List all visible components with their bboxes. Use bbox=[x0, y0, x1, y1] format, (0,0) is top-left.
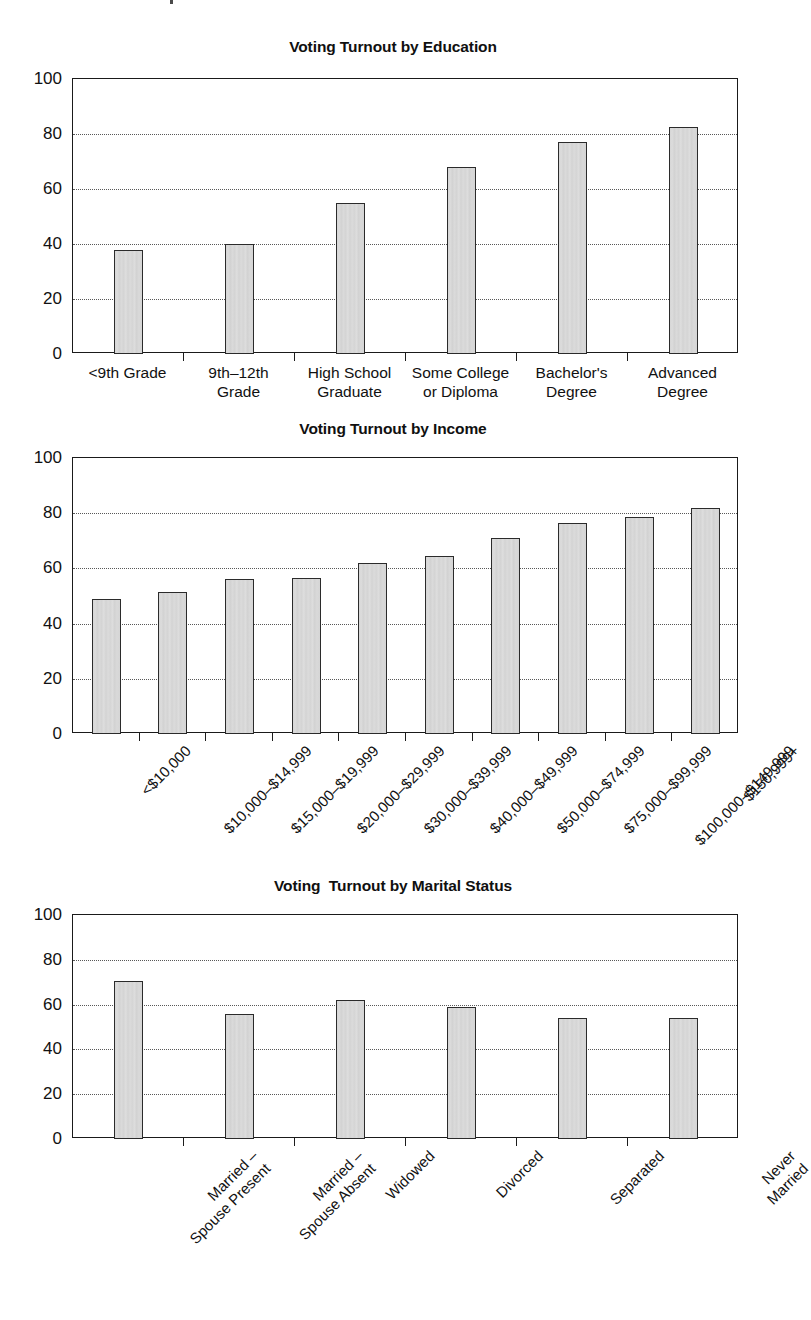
y-axis-label-100: 100 bbox=[10, 906, 62, 923]
bar bbox=[558, 1018, 587, 1139]
x-axis-tick bbox=[405, 353, 406, 361]
x-axis-tick bbox=[627, 1138, 628, 1146]
x-axis-tick bbox=[472, 733, 473, 741]
y-axis-label-40: 40 bbox=[10, 235, 62, 252]
y-axis-label-40: 40 bbox=[10, 615, 62, 632]
y-axis-label-0: 0 bbox=[10, 725, 62, 742]
chart-title-marital: Voting Turnout by Marital Status bbox=[0, 877, 786, 895]
y-axis-label-100: 100 bbox=[10, 70, 62, 87]
bar bbox=[558, 523, 587, 734]
x-axis-label: Divorced bbox=[492, 1147, 547, 1202]
gridline-40 bbox=[73, 1049, 737, 1050]
x-axis-tick bbox=[205, 733, 206, 741]
gridline-60 bbox=[73, 1005, 737, 1006]
x-axis-tick bbox=[139, 733, 140, 741]
x-axis-label: Some College or Diploma bbox=[399, 363, 522, 401]
x-axis-label: High School Graduate bbox=[288, 363, 411, 401]
x-axis-label: $150,999+ bbox=[740, 742, 803, 805]
x-axis-tick bbox=[294, 1138, 295, 1146]
y-axis-label-80: 80 bbox=[10, 504, 62, 521]
bar bbox=[225, 1014, 254, 1139]
y-axis-label-20: 20 bbox=[10, 290, 62, 307]
plot-area-income bbox=[72, 457, 738, 733]
gridline-20 bbox=[73, 1094, 737, 1095]
x-axis-tick bbox=[627, 353, 628, 361]
x-axis-tick bbox=[538, 733, 539, 741]
y-axis-label-60: 60 bbox=[10, 559, 62, 576]
y-axis-label-60: 60 bbox=[10, 180, 62, 197]
bar bbox=[691, 508, 720, 734]
x-axis-label: Bachelor's Degree bbox=[510, 363, 633, 401]
bar bbox=[669, 1018, 698, 1139]
bar bbox=[336, 1000, 365, 1139]
y-axis-label-20: 20 bbox=[10, 1085, 62, 1102]
y-axis-label-0: 0 bbox=[10, 1130, 62, 1147]
x-axis-label: Never Married bbox=[723, 1147, 811, 1236]
x-axis-label: 9th–12th Grade bbox=[177, 363, 300, 401]
x-axis-label: <$10,000 bbox=[138, 742, 195, 799]
bar bbox=[114, 981, 143, 1139]
y-axis-label-40: 40 bbox=[10, 1040, 62, 1057]
x-axis-tick bbox=[405, 1138, 406, 1146]
y-axis-label-80: 80 bbox=[10, 125, 62, 142]
x-axis-tick bbox=[516, 353, 517, 361]
bar bbox=[447, 1007, 476, 1139]
x-axis-tick bbox=[183, 1138, 184, 1146]
x-axis-label: <9th Grade bbox=[66, 363, 189, 382]
x-axis-label: Married – Spouse Absent bbox=[282, 1147, 379, 1244]
x-axis-tick bbox=[294, 353, 295, 361]
bar bbox=[225, 579, 254, 734]
x-axis-tick bbox=[405, 733, 406, 741]
x-axis-tick bbox=[338, 733, 339, 741]
y-axis-label-60: 60 bbox=[10, 996, 62, 1013]
gridline-80 bbox=[73, 513, 737, 514]
x-axis-label: Married – Spouse Present bbox=[173, 1147, 274, 1248]
y-axis-label-0: 0 bbox=[10, 345, 62, 362]
x-axis-label: Widowed bbox=[382, 1147, 438, 1203]
bar bbox=[625, 517, 654, 734]
x-axis-tick bbox=[671, 733, 672, 741]
bar bbox=[92, 599, 121, 734]
x-axis-tick bbox=[605, 733, 606, 741]
y-axis-label-80: 80 bbox=[10, 951, 62, 968]
x-axis-label: Advanced Degree bbox=[621, 363, 744, 401]
y-axis-label-100: 100 bbox=[10, 449, 62, 466]
x-axis-label: Separated bbox=[606, 1147, 668, 1209]
bar bbox=[292, 578, 321, 734]
bar bbox=[358, 563, 387, 734]
plot-area-marital bbox=[72, 914, 738, 1138]
bar bbox=[491, 538, 520, 734]
y-axis-label-20: 20 bbox=[10, 670, 62, 687]
bar bbox=[158, 592, 187, 734]
x-axis-tick bbox=[272, 733, 273, 741]
x-axis-tick bbox=[183, 353, 184, 361]
gridline-80 bbox=[73, 960, 737, 961]
x-axis-tick bbox=[516, 1138, 517, 1146]
bar bbox=[425, 556, 454, 734]
